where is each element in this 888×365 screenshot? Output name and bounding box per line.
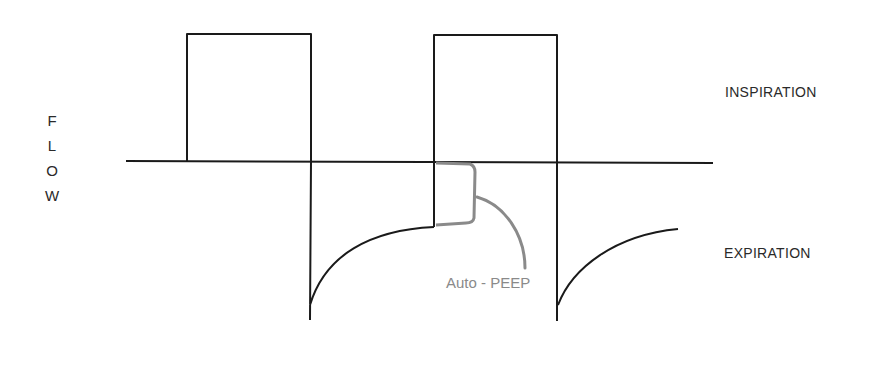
flow-waveform-diagram [0, 0, 888, 365]
y-axis-label-letter: L [44, 137, 60, 154]
breath-2-expiration [557, 163, 678, 321]
auto-peep-label: Auto - PEEP [446, 274, 530, 291]
auto-peep-region [436, 163, 475, 225]
y-axis-label-letter: W [44, 187, 60, 204]
expiration-label: EXPIRATION [724, 245, 811, 261]
breath-1-expiration [310, 161, 434, 320]
baseline-axis [126, 161, 713, 163]
y-axis-label-letter: F [44, 112, 60, 129]
breath-1-inspiration [187, 34, 311, 161]
breath-2-inspiration [434, 35, 557, 227]
inspiration-label: INSPIRATION [725, 84, 817, 100]
auto-peep-pointer [477, 197, 525, 268]
y-axis-label-letter: O [44, 162, 60, 179]
